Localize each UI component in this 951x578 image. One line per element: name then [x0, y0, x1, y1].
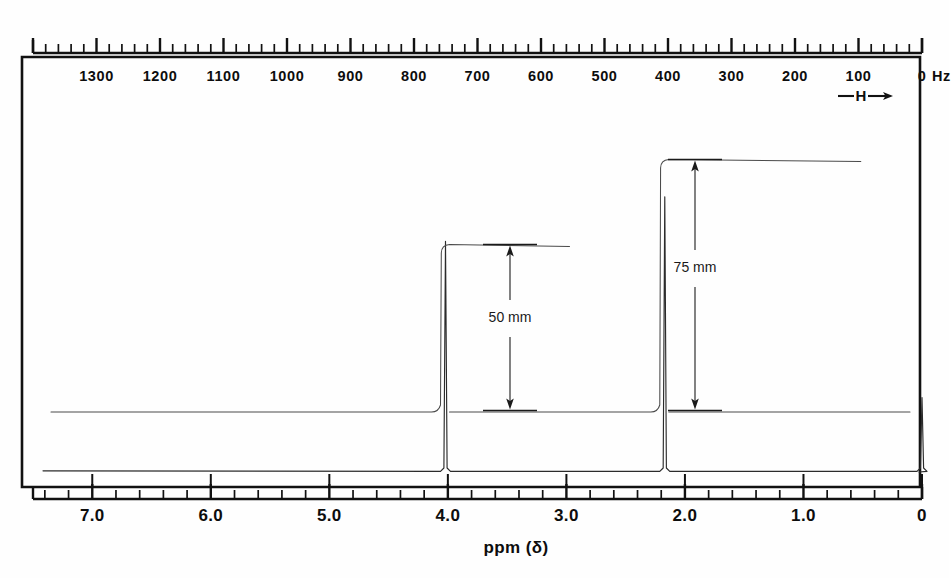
integral-b-label: 75 mm — [674, 259, 717, 275]
ppm-tick-label: 1.0 — [791, 506, 816, 526]
hz-tick-label: 600 — [528, 68, 554, 84]
field-direction-letter: H — [856, 87, 867, 104]
hz-tick-label: 1300 — [79, 68, 114, 84]
hz-tick-label: 100 — [846, 68, 872, 84]
spectrum-trace — [43, 197, 927, 472]
hz-tick-label: 800 — [401, 68, 427, 84]
chart-frame — [22, 57, 920, 487]
integral-a-label: 50 mm — [489, 309, 532, 325]
hz-tick-label: 200 — [782, 68, 808, 84]
ppm-tick-label: 4.0 — [435, 506, 460, 526]
hz-tick-label: 1100 — [207, 68, 241, 84]
hz-axis-ruler — [33, 38, 922, 53]
ppm-tick-label: 3.0 — [554, 506, 579, 526]
ppm-tick-label: 0 — [917, 506, 927, 526]
integral-a-dimension — [483, 245, 537, 411]
ppm-tick-label: 7.0 — [80, 506, 105, 526]
hz-tick-label: 1200 — [143, 68, 178, 84]
hz-tick-label: 500 — [592, 68, 618, 84]
hz-tick-label: 300 — [719, 68, 745, 84]
integral-b-dimension — [668, 160, 722, 411]
hz-tick-label: 400 — [655, 68, 681, 84]
hz-tick-label: 1000 — [270, 68, 305, 84]
hz-unit-label: Hz — [932, 68, 951, 84]
hz-tick-label: 0 — [918, 68, 927, 84]
ppm-tick-label: 6.0 — [198, 506, 223, 526]
integration-trace — [51, 160, 910, 413]
hz-tick-label: 900 — [338, 68, 364, 84]
ppm-tick-label: 5.0 — [317, 506, 342, 526]
ppm-tick-label: 2.0 — [672, 506, 697, 526]
ppm-axis-title: ppm (δ) — [483, 538, 548, 558]
hz-tick-label: 700 — [465, 68, 491, 84]
